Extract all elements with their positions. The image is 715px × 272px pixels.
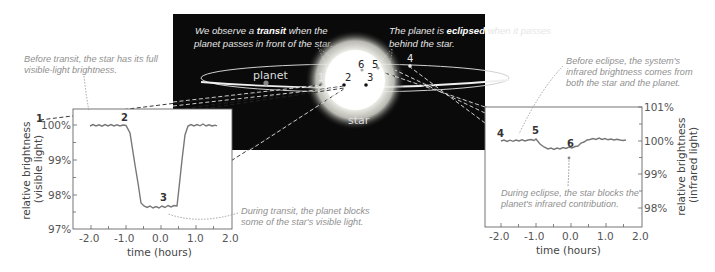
y-tick-100: 100% [644, 135, 674, 147]
x-axis-label: time (hours) [127, 246, 192, 258]
y-tick-99: 99% [48, 154, 71, 166]
marker-3: 3 [160, 192, 167, 203]
before-eclipse-note: Before eclipse, the system's infrared br… [566, 56, 695, 88]
y-tick-100: 100% [41, 119, 71, 131]
x-tick-m1: -1.0 [114, 232, 135, 244]
position-4-label: 4 [407, 53, 413, 64]
y-axis-label: relative brightness (infrared light) [675, 114, 699, 216]
x-tick-m2: -2.0 [489, 230, 510, 242]
x-axis-label: time (hours) [536, 244, 601, 256]
chart-frame [73, 109, 232, 229]
chart-frame [485, 107, 642, 227]
y-axis-label: relative brightness (visible light) [20, 118, 44, 220]
position-3-label: 3 [367, 72, 373, 83]
transit-eclipse-diagram: We observe a transit when the planet pas… [0, 0, 715, 272]
marker-1: 1 [36, 113, 43, 124]
x-tick-m1: -1.0 [524, 230, 545, 242]
eclipse-light-curve-chart: 101% 100% 99% 98% -2.0 -1.0 0.0 1.0 2.0 … [485, 101, 699, 256]
x-tick-2: 2.0 [632, 230, 649, 242]
x-tick-1: 1.0 [187, 232, 204, 244]
position-6-label: 6 [358, 59, 364, 70]
position-2-label: 2 [345, 72, 351, 83]
x-tick-2: 2.0 [222, 232, 239, 244]
position-5-label: 5 [372, 59, 378, 70]
marker-5: 5 [532, 125, 539, 136]
star-label: star [348, 114, 370, 127]
before-transit-pointer [84, 76, 89, 111]
marker-6: 6 [567, 138, 574, 149]
pointer-dot [568, 157, 571, 160]
transit-light-curve-chart: 100% 99% 98% 97% -2.0 -1.0 0.0 1.0 2.0 t… [20, 109, 239, 258]
marker-4: 4 [497, 128, 504, 139]
y-tick-98: 98% [644, 202, 667, 214]
x-tick-1: 1.0 [597, 230, 614, 242]
y-tick-98: 98% [48, 189, 71, 201]
marker-2: 2 [121, 112, 128, 123]
planet-label: planet [253, 69, 289, 82]
y-tick-97: 97% [48, 223, 71, 235]
x-tick-0: 0.0 [562, 230, 579, 242]
y-tick-99: 99% [644, 168, 667, 180]
x-tick-m2: -2.0 [79, 232, 100, 244]
position-3-dot [364, 83, 368, 87]
x-tick-0: 0.0 [152, 232, 169, 244]
y-tick-101: 101% [644, 101, 674, 113]
position-1-label: 1 [318, 72, 324, 83]
during-transit-note: During transit, the planet blocks some o… [241, 206, 372, 227]
before-transit-note: Before transit, the star has its full vi… [24, 54, 160, 75]
